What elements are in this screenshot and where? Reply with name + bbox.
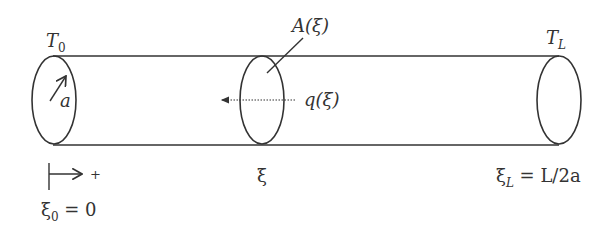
radius-label: a	[60, 90, 71, 111]
right-end-cross-section	[537, 56, 581, 144]
diagram-canvas: T0 a A(ξ) q(ξ) TL + ξ0 = 0 ξ ξL = L/2a	[0, 0, 613, 232]
heat-flux-label: q(ξ)	[304, 89, 339, 110]
right-temperature-label: TL	[546, 27, 566, 52]
position-label: ξ	[257, 165, 267, 186]
end-position-label: ξL = L/2a	[496, 165, 581, 190]
positive-direction-label: +	[90, 167, 101, 182]
left-temperature-label: T0	[46, 30, 66, 55]
cross-section-area-label: A(ξ)	[290, 15, 329, 36]
origin-label: ξ0 = 0	[41, 199, 97, 224]
